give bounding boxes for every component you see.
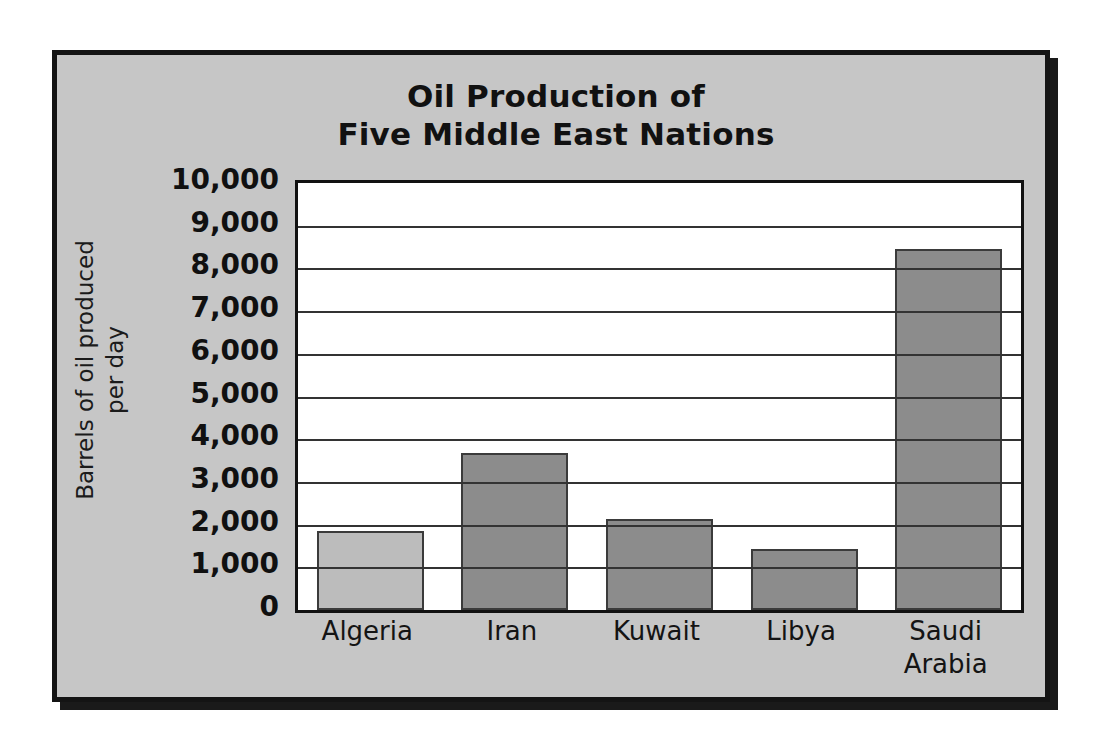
y-tick-label-10000: 10,000 [171,166,279,194]
gridline-1000 [298,567,1021,569]
y-tick-label-6000: 6,000 [190,337,279,365]
y-tick-label-1000: 1,000 [190,550,279,578]
gridline-7000 [298,311,1021,313]
x-tick-label-libya: Libya [729,615,874,648]
bar-saudi-arabia [895,249,1002,610]
chart-figure: Oil Production of Five Middle East Natio… [52,50,1050,702]
figure-frame: Oil Production of Five Middle East Natio… [52,50,1050,702]
y-tick-label-3000: 3,000 [190,465,279,493]
x-axis-tick-labels: AlgeriaIranKuwaitLibyaSaudiArabia [295,615,1018,699]
y-tick-label-5000: 5,000 [190,380,279,408]
plot-area [295,180,1024,613]
bar-kuwait [606,519,713,610]
gridline-6000 [298,354,1021,356]
gridline-9000 [298,226,1021,228]
chart-title: Oil Production of Five Middle East Natio… [57,77,1055,153]
gridline-4000 [298,439,1021,441]
gridline-5000 [298,397,1021,399]
y-tick-label-2000: 2,000 [190,508,279,536]
bar-iran [461,453,568,610]
x-tick-label-kuwait: Kuwait [584,615,729,648]
y-axis-label-line-1: Barrels of oil produced [70,220,100,520]
x-tick-label-line: Iran [440,615,585,648]
x-tick-label-line: Saudi [873,615,1018,648]
x-tick-label-line: Kuwait [584,615,729,648]
y-tick-label-9000: 9,000 [190,209,279,237]
chart-title-line-2: Five Middle East Nations [57,115,1055,153]
chart-title-line-1: Oil Production of [57,77,1055,115]
y-tick-label-7000: 7,000 [190,294,279,322]
y-tick-label-8000: 8,000 [190,251,279,279]
y-tick-label-4000: 4,000 [190,422,279,450]
bar-algeria [317,531,424,610]
x-tick-label-line: Libya [729,615,874,648]
x-tick-label-algeria: Algeria [295,615,440,648]
y-axis-tick-labels: 01,0002,0003,0004,0005,0006,0007,0008,00… [117,180,289,607]
x-tick-label-line: Arabia [873,648,1018,681]
x-tick-label-saudi-arabia: SaudiArabia [873,615,1018,681]
y-tick-label-0: 0 [260,593,279,621]
gridline-3000 [298,482,1021,484]
gridline-8000 [298,268,1021,270]
gridline-2000 [298,525,1021,527]
bar-libya [751,549,858,610]
x-tick-label-iran: Iran [440,615,585,648]
x-tick-label-line: Algeria [295,615,440,648]
